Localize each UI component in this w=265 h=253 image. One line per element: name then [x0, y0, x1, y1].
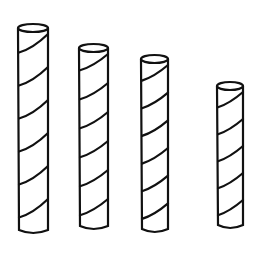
rod-4: [217, 82, 243, 228]
rod-3: [141, 55, 168, 232]
rod-2: [79, 44, 108, 229]
figure: Line drawing of four vertical striped ro…: [0, 0, 265, 253]
rods-drawing: [0, 0, 265, 253]
rod-1: [18, 24, 48, 233]
